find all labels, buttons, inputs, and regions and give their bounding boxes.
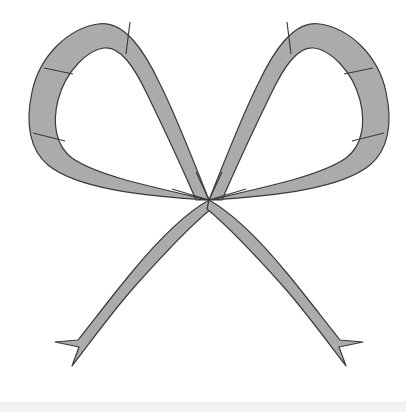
bottom-strip bbox=[0, 402, 406, 412]
ribbon-bow-graphic bbox=[0, 0, 406, 412]
illustration-canvas bbox=[0, 0, 406, 412]
